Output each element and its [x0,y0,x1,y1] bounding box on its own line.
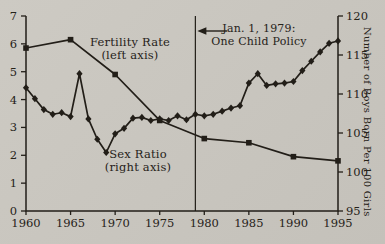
left-y-tick-label: 0 [10,204,17,218]
left-y-tick-label: 7 [10,9,17,23]
left-y-tick-label: 3 [10,120,17,134]
sex-ratio-marker [183,116,189,123]
sex-ratio-marker [201,112,207,119]
sex-ratio-marker [85,115,91,122]
sex-ratio-marker [174,112,180,119]
right-axis-title: Number of Boys Born Per 100 Girls [362,22,373,222]
x-tick-label: 1995 [323,216,352,230]
sex-ratio-marker [67,113,73,120]
sex-ratio-marker [228,104,234,111]
left-y-tick-label: 6 [10,37,17,51]
x-tick-label: 1970 [101,216,130,230]
fertility-rate-marker [23,45,29,51]
x-tick-label: 1985 [234,216,263,230]
x-tick-label: 1960 [11,216,40,230]
sex-ratio-marker [148,117,154,124]
policy-annotation: Jan. 1, 1979: One Child Policy [207,23,311,48]
x-tick-label: 1965 [56,216,85,230]
left-y-tick-label: 5 [10,65,17,79]
annotation-arrow-head-icon [197,27,206,35]
sex-ratio-series-label-line2: (right axis) [88,161,188,174]
left-y-tick-label: 1 [10,176,17,190]
fertility-rate-line [26,40,338,161]
fertility-rate-marker [68,37,74,43]
sex-ratio-marker [59,109,65,116]
x-tick-label: 1990 [279,216,308,230]
policy-annotation-line1: Jan. 1, 1979: [207,23,311,36]
sex-ratio-series-label: Sex Ratio (right axis) [88,148,188,174]
sex-ratio-marker [281,79,287,86]
fertility-rate-marker [291,154,297,160]
chart-figure: 1960196519701975198019851990199501234567… [0,0,385,244]
fertility-rate-marker [112,72,118,78]
right-y-tick-label: 95 [346,204,361,218]
sex-ratio-marker [219,108,225,115]
fertility-rate-marker [335,158,341,164]
x-tick-label: 1980 [190,216,219,230]
sex-ratio-marker [112,130,118,137]
left-y-tick-label: 4 [10,93,17,107]
sex-ratio-marker [192,111,198,118]
sex-ratio-marker [76,70,82,77]
right-y-tick-label: 120 [346,9,368,23]
sex-ratio-marker [237,102,243,109]
left-y-tick-label: 2 [10,148,17,162]
sex-ratio-line [26,41,338,153]
fertility-series-label-line2: (left axis) [80,49,180,62]
fertility-series-label: Fertility Rate (left axis) [80,36,180,62]
fertility-rate-marker [246,140,252,146]
sex-ratio-marker [335,37,341,44]
sex-ratio-marker [139,114,145,121]
sex-ratio-marker [210,111,216,118]
chart-canvas: 1960196519701975198019851990199501234567… [0,0,385,244]
sex-ratio-marker [50,111,56,118]
x-tick-label: 1975 [145,216,174,230]
policy-annotation-line2: One Child Policy [207,36,311,49]
fertility-rate-marker [201,136,207,142]
sex-ratio-marker [273,80,279,87]
